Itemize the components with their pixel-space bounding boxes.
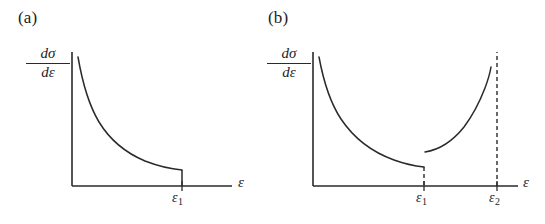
plot-canvas <box>0 0 545 224</box>
axes-a <box>72 52 232 191</box>
curve-a-decreasing <box>78 57 182 170</box>
axes-b <box>313 52 518 191</box>
curve-b-right-branch <box>425 67 491 152</box>
curve-b-left-branch <box>319 57 424 167</box>
curve-group-b <box>319 52 497 186</box>
figure-container: (a) dσ dε ε ε1 (b) dσ dε ε ε1 ε2 <box>0 0 545 224</box>
curve-group-a <box>78 57 182 186</box>
